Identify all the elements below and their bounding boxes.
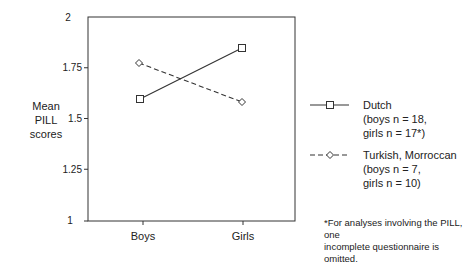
series-turkish-moroccan [136, 60, 246, 106]
legend-line: (boys n = 18, [363, 112, 427, 126]
diamond-marker [136, 60, 143, 67]
legend-item-turkish-moroccan: Turkish, Morroccan (boys n = 7, girls n … [363, 148, 457, 190]
x-tick-label-girls: Girls [232, 230, 255, 242]
footnote-line: incomplete questionnaire is omitted. [324, 241, 474, 265]
x-tick-label-boys: Boys [131, 230, 156, 242]
series-dutch [137, 45, 246, 103]
y-tick-label: 1.25 [63, 164, 83, 175]
legend-line: (boys n = 7, [363, 162, 457, 176]
legend-symbol-dutch [310, 102, 349, 109]
legend-line: girls n = 17*) [363, 126, 427, 140]
y-tick-label: 1.75 [63, 62, 83, 73]
diamond-marker [239, 99, 246, 106]
footnote: *For analyses involving the PILL, one in… [324, 217, 474, 265]
legend-line: Turkish, Morroccan [363, 148, 457, 162]
y-axis [84, 68, 88, 221]
legend-line: Dutch [363, 98, 427, 112]
legend-line: girls n = 10) [363, 176, 457, 190]
x-axis [143, 221, 243, 225]
y-tick-label: 1.5 [68, 113, 82, 124]
legend-item-dutch: Dutch (boys n = 18, girls n = 17*) [363, 98, 427, 140]
square-marker [239, 45, 246, 52]
y-tick-label: 1 [67, 215, 73, 226]
square-marker [137, 96, 144, 103]
footnote-line: *For analyses involving the PILL, one [324, 217, 474, 241]
y-tick-label: 2 [65, 12, 71, 23]
legend-symbol-turkish-moroccan [310, 152, 349, 159]
plot-frame [88, 17, 295, 221]
